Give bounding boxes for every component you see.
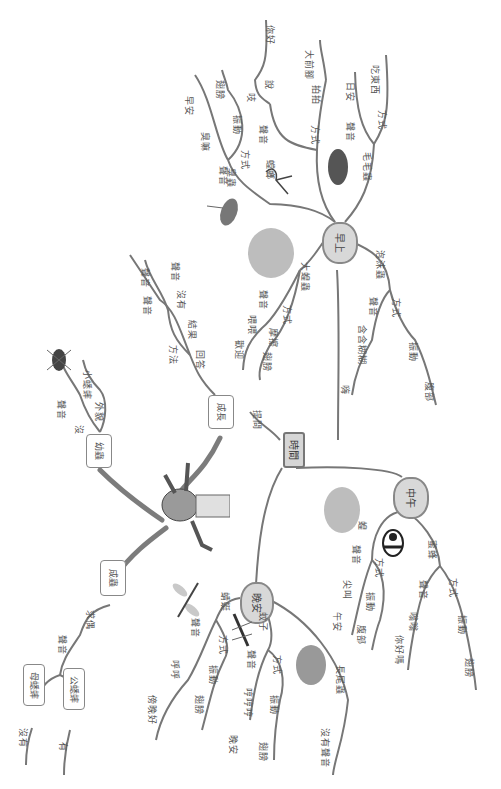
label-mayfly: 長尾蟲 <box>335 665 345 695</box>
label-dragonfly-method-vibrate: 振動 <box>208 665 218 685</box>
label-grasshopper-method-wings: 翅膀 <box>262 352 272 372</box>
label-mosquito-method-wings: 翅膀 <box>258 742 268 762</box>
label-grasshopper-method: 方式 <box>282 305 292 325</box>
label-locust-method: 方式 <box>374 558 384 578</box>
label-stinkbug-method-wings: 翅膀 <box>215 80 225 100</box>
label-mosquito-method-vibrate: 振動 <box>269 695 279 715</box>
mantis-icon <box>258 160 298 200</box>
label-nymph-none: 沒 <box>74 425 84 435</box>
label-grasshopper-sound-hey: 喂喂 <box>247 315 257 335</box>
label-froghopper-method-abdomen: 腹部 <box>424 382 434 402</box>
label-nymph-sound: 聲音 <box>56 400 66 420</box>
label-dragonfly-sound-whoosh: 呼呼 <box>170 660 180 680</box>
label-froghopper: 泡沫蟲 <box>375 250 385 280</box>
label-locust-method-vibrate: 振動 <box>365 592 375 612</box>
label-mantis-sound-chirp: 吱 <box>246 93 256 103</box>
label-froghopper-sound-mumble: 含含糊糊 <box>357 325 367 365</box>
label-bee-sound-buzz: 嗡嗡 <box>408 612 418 632</box>
label-bee-sound-how-are-you: 你好嗎 <box>394 635 404 665</box>
label-stinkbug-method-vibrate: 振動 <box>232 115 242 135</box>
label-mantis-method-pat: 拍拍 <box>311 85 321 105</box>
label-sound-b: 聲音 <box>142 296 152 316</box>
label-mantis-sound: 聲音 <box>258 125 268 145</box>
mind-map: 時間 早上 中午 晚安 幼蟲 成長 成蟲 母蟋蟀 公蟋蟀 螳螂 聲音 你好 說 … <box>0 0 501 789</box>
label-bee: 蜜蜂 <box>427 540 437 560</box>
label-sound-c: 聲音 <box>140 268 150 288</box>
label-caterpillar-method: 方式 <box>377 110 387 130</box>
label-caterpillar-method-eating: 吃東西 <box>370 65 380 95</box>
label-dragonfly-method: 方式 <box>218 635 228 655</box>
label-bee-method-vibrate: 振動 <box>457 615 467 635</box>
label-locust-sound-good-afternoon: 午安 <box>332 612 342 632</box>
label-grasshopper: 大蝗蟲 <box>300 262 310 292</box>
label-froghopper-method: 方式 <box>391 298 401 318</box>
label-locust-sound-scream: 尖叫 <box>342 580 352 600</box>
node-noon[interactable]: 中午 <box>393 477 429 519</box>
bee-icon <box>375 525 411 561</box>
label-bee-method: 方式 <box>448 578 458 598</box>
locust-picture <box>324 487 360 533</box>
label-stinkbug-sound-smelly: 臭嘛 <box>200 132 210 152</box>
label-mantis-sound-hello: 你好 <box>265 25 275 45</box>
label-mosquito: 蚊子 <box>258 612 268 632</box>
label-none: 沒有 <box>176 290 186 310</box>
label-male-answer: 有 <box>58 742 68 752</box>
caterpillar-icon <box>320 145 356 195</box>
label-mosquito-method: 方式 <box>272 655 282 675</box>
label-bee-sound: 聲音 <box>418 580 428 600</box>
node-adult[interactable]: 成蟲 <box>100 560 126 596</box>
label-mantis-method: 方式 <box>310 125 320 145</box>
label-dragonfly-sound-good-evening: 傍晚好 <box>147 695 157 725</box>
label-grasshopper-method-rub: 摩擦 <box>268 328 278 348</box>
stinkbug-icon <box>205 192 245 232</box>
label-mosquito-sound: 聲音 <box>246 650 256 670</box>
label-female-answer: 沒有 <box>18 728 28 748</box>
node-adult-stage[interactable]: 成長 <box>208 395 234 429</box>
label-courtship: 求偶 <box>85 610 95 630</box>
center-node-time[interactable]: 時間 <box>283 432 305 468</box>
node-male-cricket[interactable]: 公蟋蟀 <box>63 668 85 710</box>
label-bee-method-wings: 翅膀 <box>464 658 474 678</box>
label-grasshopper-sound-welcome: 歡迎 <box>234 340 244 360</box>
label-sound-a: 聲音 <box>170 262 180 282</box>
label-result: 結果 <box>187 320 197 340</box>
label-mantis-method-forelegs: 大前腳 <box>304 50 314 80</box>
node-morning[interactable]: 早上 <box>322 222 358 264</box>
label-froghopper-method-vibrate: 振動 <box>408 342 418 362</box>
label-dragonfly-sound: 聲音 <box>190 618 200 638</box>
label-mayfly-no-sound: 沒有聲音 <box>320 728 330 768</box>
label-caterpillar: 毛毛蟲 <box>362 152 372 182</box>
label-dragonfly-method-wings: 翅膀 <box>194 695 204 715</box>
label-stinkbug-method: 方式 <box>240 150 250 170</box>
label-stinkbug-sound-morning: 早安 <box>184 96 194 116</box>
grasshopper-picture <box>248 228 294 278</box>
label-locust-sound: 聲音 <box>351 545 361 565</box>
small-cricket-icon <box>42 345 76 375</box>
node-nymph[interactable]: 幼蟲 <box>86 434 112 468</box>
label-caterpillar-sound-good-day: 日安 <box>345 82 355 102</box>
label-adult-sound: 聲音 <box>57 635 67 655</box>
label-method: 方法 <box>168 345 178 365</box>
label-nymph-appearance: 外貌 <box>94 402 104 422</box>
label-caterpillar-sound: 聲音 <box>345 122 355 142</box>
mosquito-icon <box>228 610 254 650</box>
label-mosquito-sound-good-night: 晚安 <box>228 735 238 755</box>
label-locust: 蝗 <box>357 521 367 531</box>
label-ask: 提問 <box>252 410 262 430</box>
label-dragonfly: 蜻蜓 <box>220 592 230 612</box>
label-nymph-small-cricket: 小蟋蟀 <box>82 370 92 400</box>
cricket-illustration <box>140 455 230 555</box>
node-female-cricket[interactable]: 母蟋蟀 <box>23 664 45 706</box>
label-locust-method-abdomen: 腹部 <box>356 625 366 645</box>
label-answer: 回答 <box>195 350 205 370</box>
label-froghopper-sound-hi: 嗨 <box>340 385 350 395</box>
mayfly-picture <box>296 645 326 685</box>
label-mantis: 螳螂 <box>265 160 275 180</box>
label-mantis-sound-say: 說 <box>264 80 274 90</box>
label-stinkbug-sound: 聲音 <box>218 166 228 186</box>
label-froghopper-sound: 聲音 <box>368 297 378 317</box>
label-grasshopper-sound: 聲音 <box>258 290 268 310</box>
label-mosquito-sound-hum: 哼哼哼 <box>243 688 253 718</box>
